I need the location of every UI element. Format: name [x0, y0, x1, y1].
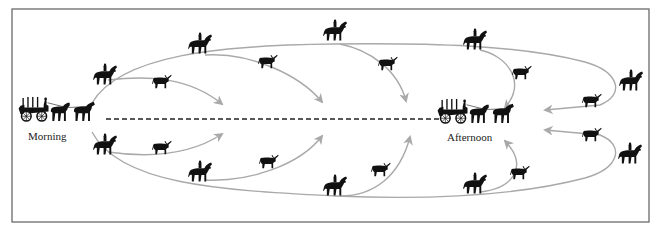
- diagram-frame: [12, 9, 649, 222]
- morning-label: Morning: [28, 130, 67, 142]
- cattle-drive-diagram: Morning Afternoon: [0, 0, 658, 233]
- afternoon-label: Afternoon: [447, 131, 493, 143]
